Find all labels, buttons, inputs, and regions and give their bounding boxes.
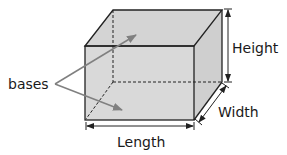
length-dimension-arrow xyxy=(86,122,194,130)
width-label: Width xyxy=(218,104,259,120)
length-label: Length xyxy=(117,134,165,150)
height-label: Height xyxy=(232,40,279,56)
prism-diagram: Height Width Length bases xyxy=(0,0,287,155)
bases-label: bases xyxy=(8,76,49,92)
height-dimension-arrow xyxy=(224,9,232,82)
